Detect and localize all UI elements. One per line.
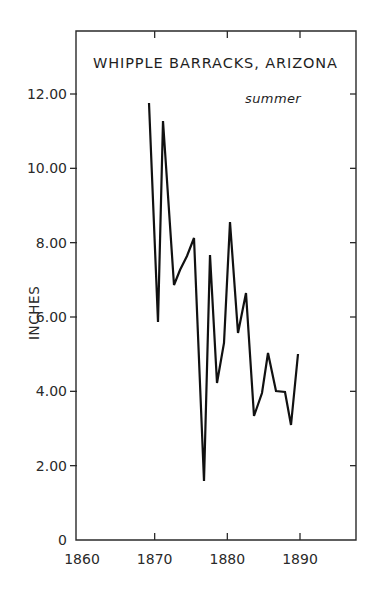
x-tick-label: 1870 <box>137 551 173 567</box>
y-axis-label: INCHES <box>26 286 42 340</box>
y-tick-label: 4.00 <box>36 383 67 399</box>
y-tick-label: 12.00 <box>27 86 67 102</box>
y-tick-label: 2.00 <box>36 458 67 474</box>
y-tick-label: 8.00 <box>36 235 67 251</box>
x-tick-label: 1860 <box>64 551 100 567</box>
chart-title: WHIPPLE BARRACKS, ARIZONA <box>93 55 338 71</box>
chart-subtitle: summer <box>245 91 302 106</box>
y-tick-label: 0 <box>58 532 67 548</box>
y-tick-label: 10.00 <box>27 160 67 176</box>
precipitation-line-chart: 02.004.006.008.0010.0012.00 186018701880… <box>0 0 378 595</box>
x-tick-label: 1880 <box>210 551 246 567</box>
plot-frame <box>76 31 356 540</box>
x-tick-label: 1890 <box>282 551 318 567</box>
summer-precipitation-line <box>149 103 298 481</box>
x-axis-ticks: 1860187018801890 <box>64 31 318 567</box>
